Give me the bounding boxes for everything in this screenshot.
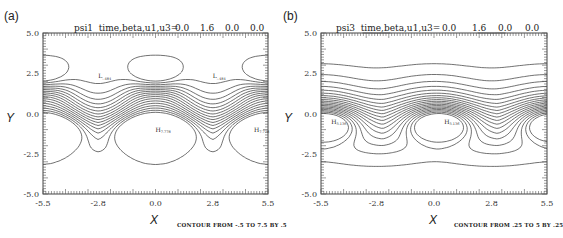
y-tick-label: 5.0 <box>304 29 317 38</box>
contour-line <box>321 108 547 139</box>
x-tick-label: 0.0 <box>428 199 441 208</box>
y-tick-label: -5.0 <box>24 190 39 199</box>
contour-plot: -5.5-2.80.02.85.55.02.50.0-2.5-5.0H5.136… <box>279 0 557 238</box>
contour-line <box>321 64 547 68</box>
x-tick-label: -5.5 <box>313 199 328 208</box>
y-tick-label: -2.5 <box>302 150 317 159</box>
y-axis-label: Y <box>6 111 14 125</box>
y-tick-label: -5.0 <box>302 190 317 199</box>
extremum-label: L-.484 <box>213 72 227 81</box>
x-tick-label: -5.5 <box>35 199 50 208</box>
x-tick-label: -2.8 <box>369 199 384 208</box>
panel-b: (b) psi3 time,beta,u1,u3= 0.0 1.6 0.0 0.… <box>279 0 557 238</box>
y-tick-label: 2.5 <box>26 69 39 78</box>
contour-line <box>321 111 547 154</box>
y-axis-label: Y <box>284 111 292 125</box>
y-tick-label: 0.0 <box>304 110 317 119</box>
panel-a: (a) psi1 time,beta,u1,u3= 0.0 1.6 0.0 0.… <box>0 0 278 238</box>
y-tick-label: 0.0 <box>26 110 39 119</box>
contour-plot: -5.5-2.80.02.85.55.02.50.0-2.5-5.0L-.484… <box>0 0 278 238</box>
contour-line <box>321 100 547 114</box>
x-axis-label: X <box>150 213 158 227</box>
x-tick-label: 5.5 <box>262 199 275 208</box>
x-tick-label: 2.8 <box>206 199 219 208</box>
x-axis-label: X <box>429 213 437 227</box>
contour-line <box>43 112 268 164</box>
x-tick-label: -2.8 <box>91 199 106 208</box>
y-tick-label: -2.5 <box>24 150 39 159</box>
contour-line <box>43 101 268 126</box>
contour-line <box>43 55 268 81</box>
extremum-label: H5.136 <box>331 118 346 127</box>
contour-line <box>321 75 547 81</box>
contour-info: CONTOUR FROM -.5 TO 7.5 BY .5 <box>177 222 287 228</box>
y-tick-label: 2.5 <box>304 69 317 78</box>
extremum-label: H7.778 <box>156 126 171 135</box>
x-tick-label: 0.0 <box>149 199 162 208</box>
contour-info: CONTOUR FROM .25 TO 5 BY .25 <box>454 222 563 228</box>
contour-line <box>43 80 268 84</box>
x-tick-label: 5.5 <box>541 199 554 208</box>
contour-line <box>321 81 547 89</box>
plot-frame <box>43 33 268 194</box>
contour-line <box>43 88 268 104</box>
extremum-label: H5.136 <box>444 118 459 127</box>
x-tick-label: 2.8 <box>485 199 498 208</box>
extremum-label: L-.484 <box>98 72 112 81</box>
y-tick-label: 5.0 <box>26 29 39 38</box>
